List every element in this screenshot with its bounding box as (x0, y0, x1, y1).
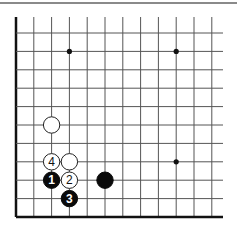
black-stone-1: 1 (43, 172, 59, 188)
move-number: 4 (48, 155, 55, 169)
white-stone-2: 2 (61, 172, 77, 188)
white-stone-icon (61, 154, 77, 170)
white-stone (43, 117, 59, 133)
move-number: 2 (66, 173, 73, 187)
star-point-icon (67, 49, 72, 54)
black-stone-3: 3 (61, 190, 77, 206)
black-stone (97, 172, 113, 188)
white-stone-4: 4 (43, 154, 59, 170)
go-board: 4123 (0, 0, 237, 232)
star-point-icon (174, 159, 179, 164)
white-stone-icon (43, 117, 59, 133)
star-point-icon (174, 49, 179, 54)
black-stone-icon (97, 172, 113, 188)
move-number: 3 (66, 192, 73, 206)
white-stone (61, 154, 77, 170)
move-number: 1 (48, 173, 55, 187)
